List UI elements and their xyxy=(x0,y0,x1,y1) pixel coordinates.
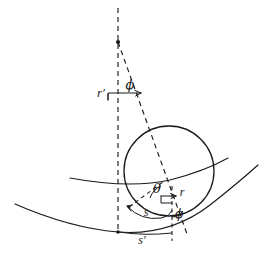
r-bracket xyxy=(161,196,172,203)
lower-wavefront-arc xyxy=(15,165,258,232)
inclined-ray-dashed xyxy=(118,42,187,234)
label-r-prime: r′ xyxy=(97,85,105,100)
label-theta: θ xyxy=(153,181,161,196)
label-phi-upper: ϕ xyxy=(126,77,135,92)
phi-upper-bracket xyxy=(108,93,141,100)
geometry-diagram-svg: r′ ϕ θ r ϕ s s′ xyxy=(0,0,264,256)
label-s-prime: s′ xyxy=(138,233,146,247)
figure-container: r′ ϕ θ r ϕ s s′ xyxy=(0,0,264,256)
label-phi-lower: ϕ xyxy=(175,207,183,221)
label-s: s xyxy=(144,205,149,219)
label-r: r xyxy=(180,185,185,199)
upper-wavefront-arc xyxy=(70,158,228,184)
apex-point-marker xyxy=(116,40,120,44)
